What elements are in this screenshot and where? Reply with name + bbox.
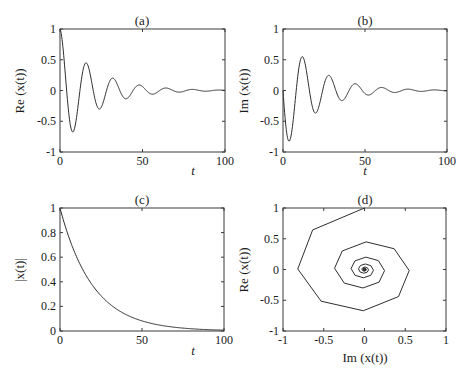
y-tick-label: 1	[273, 201, 279, 215]
panel-c: (c) |x(t)| t 05010000.20.40.60.81	[12, 192, 233, 358]
panel-c-ylabel: |x(t)|	[12, 258, 27, 282]
y-tick-label: -1	[269, 145, 279, 159]
y-tick-label: -1	[269, 324, 279, 338]
panel-c-xlabel: t	[191, 343, 195, 358]
x-tick-label: 0	[57, 333, 63, 347]
y-tick-label: 0.5	[264, 53, 279, 67]
panel-d-xlabel: Im (x(t))	[342, 350, 387, 365]
y-tick-label: 0.5	[264, 232, 279, 246]
y-tick-label: 0.4	[41, 275, 56, 289]
y-tick-label: 0.8	[41, 226, 56, 240]
y-tick-label: 0.2	[41, 299, 56, 313]
panel-a-ylabel: Re (x(t))	[12, 68, 27, 113]
panel-d-curve	[298, 208, 409, 311]
panel-c-curve	[60, 208, 224, 330]
y-tick-label: 1	[50, 22, 56, 36]
y-tick-label: 0	[50, 324, 56, 338]
x-tick-label: 50	[359, 154, 371, 168]
y-tick-label: 0.5	[41, 53, 56, 67]
x-tick-label: 1	[443, 333, 449, 347]
x-tick-label: 100	[216, 154, 234, 168]
panel-a: (a) Re (x(t)) t 050100-1-0.500.51	[12, 13, 234, 178]
panel-d-title: (d)	[357, 192, 372, 207]
y-tick-label: -0.5	[260, 114, 279, 128]
y-tick-label: 0	[273, 263, 279, 277]
x-tick-label: 50	[136, 333, 148, 347]
x-tick-label: 50	[137, 154, 149, 168]
figure: (a) Re (x(t)) t 050100-1-0.500.51 (b) Im…	[0, 0, 468, 378]
panel-a-curve	[60, 29, 225, 132]
panel-b-frame	[283, 29, 447, 152]
panel-b-ticks: 050100-1-0.500.51	[260, 22, 456, 168]
y-tick-label: 1	[50, 201, 56, 215]
x-tick-label: 100	[438, 154, 456, 168]
x-tick-label: 0	[57, 154, 63, 168]
x-tick-label: 0	[362, 333, 368, 347]
panel-d-ylabel: Re (x(t))	[236, 247, 251, 292]
x-tick-label: -1	[278, 333, 288, 347]
panel-b-curve	[283, 57, 447, 142]
x-tick-label: -0.5	[314, 333, 333, 347]
panel-b-ylabel: Im (x(t))	[236, 68, 251, 113]
y-tick-label: 0	[50, 84, 56, 98]
panel-a-xlabel: t	[191, 163, 195, 178]
y-tick-label: 0.6	[41, 250, 56, 264]
x-tick-label: 100	[215, 333, 233, 347]
y-tick-label: -0.5	[37, 114, 56, 128]
panel-b: (b) Im (x(t)) t 050100-1-0.500.51	[236, 13, 456, 178]
y-tick-label: 0	[273, 84, 279, 98]
panel-d: (d) Re (x(t)) Im (x(t)) -1-0.500.51-1-0.…	[236, 192, 449, 365]
panel-d-center-dot	[363, 268, 367, 272]
x-tick-label: 0.5	[398, 333, 413, 347]
x-tick-label: 0	[280, 154, 286, 168]
panel-c-ticks: 05010000.20.40.60.81	[41, 201, 233, 347]
panel-c-title: (c)	[135, 192, 149, 207]
y-tick-label: 1	[273, 22, 279, 36]
panel-c-frame	[60, 208, 224, 331]
panel-a-title: (a)	[135, 13, 149, 28]
y-tick-label: -0.5	[260, 293, 279, 307]
panel-b-title: (b)	[357, 13, 372, 28]
y-tick-label: -1	[46, 145, 56, 159]
